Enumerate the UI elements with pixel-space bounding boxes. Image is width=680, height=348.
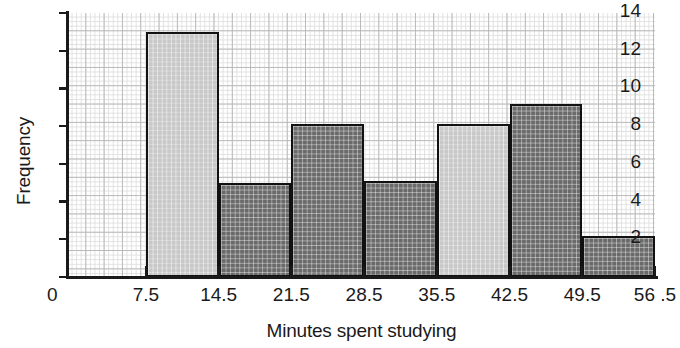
x-axis-tick [508, 266, 510, 276]
x-axis-tick-label: 49.5 [542, 284, 622, 306]
y-axis-tick-label: 8 [630, 113, 641, 135]
y-axis-tick-label: 14 [620, 0, 641, 22]
y-axis-line [66, 11, 69, 279]
x-axis-tick [290, 266, 292, 276]
x-axis-tick-label: 7.5 [106, 284, 186, 306]
x-axis-line [66, 276, 658, 279]
x-axis-tick [581, 266, 583, 276]
histogram-bar [291, 124, 364, 277]
x-axis-tick-label: 21.5 [251, 284, 331, 306]
x-axis-tick-label: 14.5 [179, 284, 259, 306]
x-axis-tick-label: 28.5 [324, 284, 404, 306]
histogram-bar [146, 32, 219, 277]
x-axis-origin-label: 0 [47, 284, 58, 306]
y-axis-tick-label: 10 [620, 75, 641, 97]
x-axis-tick [436, 266, 438, 276]
y-axis-tick-label: 12 [620, 38, 641, 60]
y-axis-tick-label: 6 [630, 151, 641, 173]
x-axis-tick [363, 266, 365, 276]
y-axis-title: Frequency [13, 61, 35, 261]
histogram-bar [582, 236, 655, 277]
x-axis-tick [654, 266, 656, 276]
plot-area: 02468101214 [68, 13, 655, 277]
x-axis-tick-label: 42.5 [470, 284, 550, 306]
x-axis-title: Minutes spent studying [68, 320, 655, 342]
histogram-bar [437, 124, 510, 277]
histogram-bar [364, 181, 437, 277]
y-axis-tick-label: 2 [630, 226, 641, 248]
x-axis-tick-label: 56 .5 [615, 284, 680, 306]
histogram-bar [219, 183, 292, 277]
y-axis-tick-label: 4 [630, 189, 641, 211]
x-axis-tick [145, 266, 147, 276]
x-axis-tick-label: 35.5 [397, 284, 477, 306]
x-axis-tick [217, 266, 219, 276]
histogram-bar [510, 104, 583, 277]
